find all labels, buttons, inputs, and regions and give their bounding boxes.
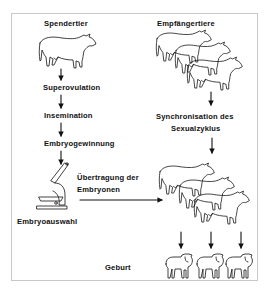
calves-icon [166, 254, 252, 278]
recipient-cows-icon [156, 30, 242, 90]
microscope-icon [37, 163, 68, 209]
pregnant-recipient-cows-icon [159, 163, 249, 224]
diagram-artwork [0, 0, 270, 296]
donor-cow-icon [39, 34, 96, 68]
